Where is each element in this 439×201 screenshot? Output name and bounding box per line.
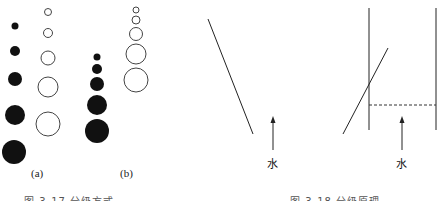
filled-particle: [92, 64, 102, 74]
open-particle: [132, 16, 140, 24]
open-particle: [124, 68, 148, 92]
container-water-arrow-icon: [400, 116, 405, 150]
open-particle: [44, 29, 53, 38]
v-water-arrow-icon: [271, 116, 276, 150]
open-particle: [133, 7, 139, 13]
filled-particle: [10, 46, 20, 56]
v-water-label: 水: [267, 155, 278, 171]
filled-particle: [8, 72, 22, 86]
panel-b-filled-circles: [85, 54, 109, 144]
open-particle: [45, 9, 52, 16]
panel-a-open-circles: [36, 9, 60, 137]
filled-particle: [90, 77, 104, 91]
panel-a-filled-circles: [2, 23, 26, 165]
figure-right-caption: 图 3-18 分级原理: [290, 193, 380, 201]
filled-particle: [12, 23, 19, 30]
container-water-label: 水: [396, 155, 407, 171]
open-particle: [130, 28, 143, 41]
filled-particle: [94, 54, 101, 61]
panel-b-label: (b): [120, 167, 133, 179]
panel-b-open-circles: [124, 7, 148, 92]
filled-particle: [87, 95, 107, 115]
filled-particle: [5, 105, 25, 125]
v-left-wall: [208, 19, 253, 134]
open-particle: [41, 51, 55, 65]
filled-particle: [85, 119, 109, 143]
open-particle: [36, 112, 60, 136]
filled-particle: [2, 140, 26, 164]
figure-left-caption: 图 3-17 分级方式: [24, 193, 114, 201]
figure-canvas: [0, 0, 439, 201]
open-particle: [126, 44, 146, 64]
open-particle: [38, 77, 58, 97]
panel-a-label: (a): [31, 167, 43, 179]
v-right-wall: [343, 48, 388, 134]
